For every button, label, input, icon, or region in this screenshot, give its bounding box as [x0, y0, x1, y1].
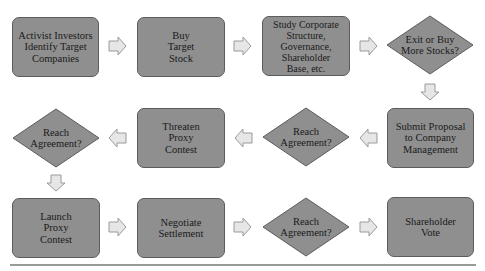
node-identify-targets: Activist Investors Identify Target Compa… [12, 17, 99, 77]
node-submit-proposal: Submit Proposal to Company Management [387, 108, 474, 168]
node-label: Launch Proxy Contest [40, 211, 72, 246]
arrow-right-icon [108, 217, 127, 237]
node-label: Study Corporate Structure, Governance, S… [273, 19, 339, 74]
arrow-left-icon [234, 128, 253, 148]
arrow-left-icon [359, 128, 378, 148]
node-shareholder-vote: Shareholder Vote [387, 197, 474, 257]
node-launch-proxy-contest: Launch Proxy Contest [12, 198, 100, 258]
arrow-right-icon [108, 36, 127, 56]
arrow-right-icon [233, 36, 252, 56]
arrow-right-icon [359, 217, 378, 237]
node-buy-target-stock: Buy Target Stock [137, 17, 225, 77]
node-study-corporate-structure: Study Corporate Structure, Governance, S… [262, 16, 350, 76]
arrow-right-icon [233, 217, 252, 237]
node-label: Shareholder Vote [405, 216, 456, 239]
arrow-right-icon [359, 36, 378, 56]
decision-exit-or-buy: Exit or Buy More Stocks? [386, 15, 474, 75]
node-label: Threaten Proxy Contest [162, 121, 199, 156]
decision-reach-agreement-2a: Reach Agreement? [12, 108, 100, 168]
node-label: Exit or Buy More Stocks? [401, 34, 459, 57]
decision-reach-agreement-3: Reach Agreement? [262, 197, 350, 257]
node-negotiate-settlement: Negotiate Settlement [137, 198, 225, 258]
arrow-left-icon [108, 128, 127, 148]
arrow-down-icon [46, 174, 66, 192]
arrow-down-icon [420, 83, 440, 101]
node-label: Negotiate Settlement [159, 217, 204, 240]
node-label: Reach Agreement? [280, 126, 331, 149]
decision-reach-agreement-2b: Reach Agreement? [262, 107, 350, 167]
node-label: Activist Investors Identify Target Compa… [18, 30, 92, 65]
node-label: Buy Target Stock [168, 30, 194, 65]
node-label: Submit Proposal to Company Management [396, 121, 466, 156]
node-label: Reach Agreement? [30, 127, 81, 150]
bottom-rule-divider [10, 264, 476, 266]
node-label: Reach Agreement? [280, 216, 331, 239]
node-threaten-proxy-contest: Threaten Proxy Contest [137, 108, 225, 168]
